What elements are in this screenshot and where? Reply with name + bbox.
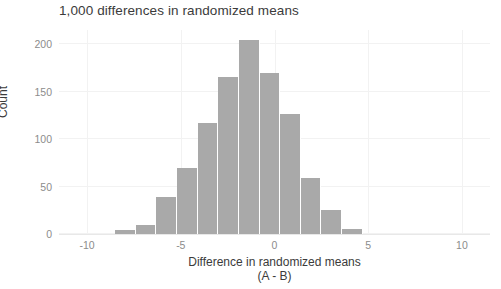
histogram-chart: 1,000 differences in randomized means Co… (0, 0, 501, 289)
histogram-bar (321, 210, 342, 234)
x-axis-title-line1: Difference in randomized means (188, 255, 361, 269)
y-axis-tick-label: 50 (40, 181, 52, 193)
x-axis-title-line2: (A - B) (59, 269, 490, 283)
x-axis-title: Difference in randomized means (A - B) (59, 255, 490, 283)
histogram-bar (218, 77, 239, 234)
histogram-bar (198, 123, 219, 234)
x-axis-tick-label: 5 (365, 239, 371, 251)
chart-title: 1,000 differences in randomized means (59, 3, 299, 18)
histogram-bar (177, 168, 198, 234)
x-axis-tick-label: 0 (272, 239, 278, 251)
histogram-bar (260, 73, 281, 234)
x-axis-tick-label: 10 (456, 239, 468, 251)
x-axis-tick-labels: -10-50510 (59, 239, 490, 253)
histogram-bar (156, 197, 177, 234)
y-axis-tick-label: 0 (46, 228, 52, 240)
y-axis-tick-label: 200 (34, 38, 52, 50)
y-axis-tick-label: 100 (34, 133, 52, 145)
histogram-bars (59, 30, 490, 234)
histogram-bar (280, 114, 301, 235)
x-axis-tick-label: -10 (80, 239, 95, 251)
histogram-bar (239, 40, 260, 235)
x-axis-line (59, 234, 490, 235)
plot-area (59, 30, 490, 234)
x-axis-tick-label: -5 (176, 239, 185, 251)
y-axis-tick-labels: 050100150200 (0, 30, 52, 234)
histogram-bar (136, 225, 157, 234)
histogram-bar (301, 178, 322, 234)
y-axis-tick-label: 150 (34, 86, 52, 98)
